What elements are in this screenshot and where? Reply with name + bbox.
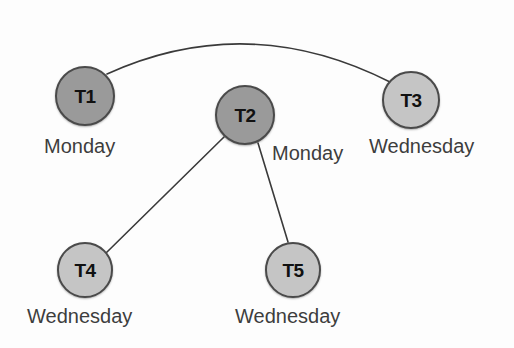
node-t1[interactable]: T1 xyxy=(55,66,115,126)
node-t4[interactable]: T4 xyxy=(57,242,113,298)
node-t1-day-label: Monday xyxy=(44,136,115,156)
node-t1-id: T1 xyxy=(74,87,95,106)
node-t5[interactable]: T5 xyxy=(265,242,321,298)
node-t3-id: T3 xyxy=(400,91,421,110)
diagram-canvas: T1 Monday T2 Monday T3 Wednesday T4 Wedn… xyxy=(0,0,514,348)
node-t2-id: T2 xyxy=(234,106,255,125)
node-t5-id: T5 xyxy=(282,261,303,280)
node-t2-day-label: Monday xyxy=(272,143,343,163)
edge-t1-t3 xyxy=(107,44,390,82)
node-t2[interactable]: T2 xyxy=(215,85,275,145)
node-t3[interactable]: T3 xyxy=(382,71,440,129)
node-t4-id: T4 xyxy=(74,261,95,280)
edges-group xyxy=(106,44,390,253)
edge-t2-t4 xyxy=(106,137,224,253)
node-t3-day-label: Wednesday xyxy=(369,136,474,156)
node-t5-day-label: Wednesday xyxy=(235,306,340,326)
node-t4-day-label: Wednesday xyxy=(27,306,132,326)
